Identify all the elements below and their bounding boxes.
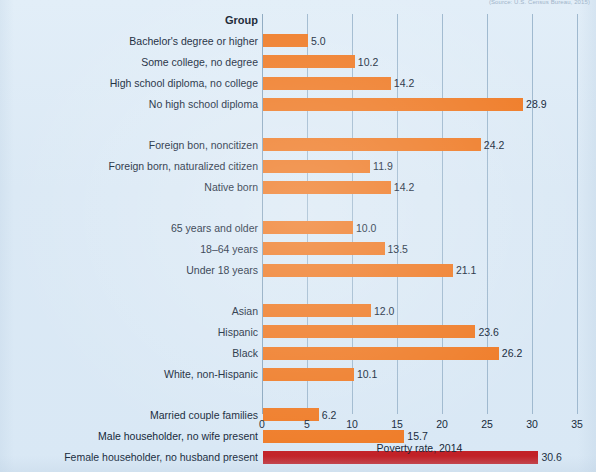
bar xyxy=(263,430,404,443)
category-label: High school diploma, no college xyxy=(110,77,258,89)
bar-value-label: 6.2 xyxy=(322,409,337,421)
x-axis-title: Poverty rate, 2014 xyxy=(262,442,577,454)
x-tick-label: 5 xyxy=(304,418,310,430)
bar xyxy=(263,221,353,234)
category-label: 65 years and older xyxy=(171,222,258,234)
bar-value-label: 5.0 xyxy=(311,35,326,47)
category-label: Native born xyxy=(204,181,258,193)
category-label: White, non-Hispanic xyxy=(164,368,258,380)
bar-value-label: 24.2 xyxy=(484,139,504,151)
source-caption: (Source: U.S. Census Bureau, 2015) xyxy=(270,0,590,7)
x-tick-label: 20 xyxy=(436,418,448,430)
bar xyxy=(263,55,355,68)
bar xyxy=(263,264,453,277)
bar xyxy=(263,34,308,47)
bar-row: Male householder, no wife present15.7 xyxy=(262,430,577,443)
category-label: Asian xyxy=(232,305,258,317)
bar-value-label: 11.9 xyxy=(373,160,393,172)
x-tick-label: 15 xyxy=(391,418,403,430)
category-label: Black xyxy=(232,347,258,359)
x-tick-label: 30 xyxy=(526,418,538,430)
category-label: Foreign bon, noncitizen xyxy=(149,139,258,151)
plot-area: Group Bachelor's degree or higher5.0Some… xyxy=(262,14,577,414)
bar-value-label: 10.0 xyxy=(356,222,376,234)
bar-row: Foreign bon, noncitizen24.2 xyxy=(262,138,577,151)
bar-value-label: 26.2 xyxy=(502,347,522,359)
x-tick-label: 0 xyxy=(259,418,265,430)
bar xyxy=(263,181,391,194)
bar xyxy=(263,368,354,381)
bar xyxy=(263,304,371,317)
bar-row: Some college, no degree10.2 xyxy=(262,55,577,68)
bar-value-label: 14.2 xyxy=(394,77,414,89)
bar-value-label: 10.2 xyxy=(358,56,378,68)
category-label: Married couple families xyxy=(150,409,258,421)
bar xyxy=(263,242,385,255)
category-label: Hispanic xyxy=(218,326,258,338)
gridline-35 xyxy=(577,14,578,414)
bar xyxy=(263,138,481,151)
category-label: Bachelor's degree or higher xyxy=(129,35,258,47)
category-label: Under 18 years xyxy=(186,264,258,276)
category-label: 18–64 years xyxy=(200,243,258,255)
bar-row: Black26.2 xyxy=(262,347,577,360)
bar xyxy=(263,325,475,338)
bar-row: White, non-Hispanic10.1 xyxy=(262,368,577,381)
category-label: No high school diploma xyxy=(149,98,258,110)
bar-value-label: 14.2 xyxy=(394,181,414,193)
bar-value-label: 21.1 xyxy=(456,264,476,276)
category-label: Some college, no degree xyxy=(141,56,258,68)
bar-row: 18–64 years13.5 xyxy=(262,242,577,255)
bar xyxy=(263,77,391,90)
bar xyxy=(263,347,499,360)
group-column-header: Group xyxy=(225,14,258,26)
bar-value-label: 10.1 xyxy=(357,368,377,380)
bar-row: Foreign born, naturalized citizen11.9 xyxy=(262,160,577,173)
bar-row: Under 18 years21.1 xyxy=(262,264,577,277)
bar-row: Native born14.2 xyxy=(262,181,577,194)
bar-value-label: 28.9 xyxy=(526,98,546,110)
category-label: Male householder, no wife present xyxy=(98,430,258,442)
poverty-rate-bar-chart: (Source: U.S. Census Bureau, 2015) Group… xyxy=(0,0,596,472)
bar-row: Asian12.0 xyxy=(262,304,577,317)
bar xyxy=(263,98,523,111)
bar-value-label: 15.7 xyxy=(407,430,427,442)
bar-row: Hispanic23.6 xyxy=(262,325,577,338)
category-label: Female householder, no husband present xyxy=(64,451,258,463)
category-label: Foreign born, naturalized citizen xyxy=(109,160,258,172)
x-tick-label: 25 xyxy=(481,418,493,430)
bar xyxy=(263,408,319,421)
bar-row: High school diploma, no college14.2 xyxy=(262,77,577,90)
bar-value-label: 23.6 xyxy=(478,326,498,338)
x-tick-label: 10 xyxy=(346,418,358,430)
bar-row: No high school diploma28.9 xyxy=(262,98,577,111)
bar-row: Bachelor's degree or higher5.0 xyxy=(262,34,577,47)
bar-value-label: 12.0 xyxy=(374,305,394,317)
bar xyxy=(263,160,370,173)
x-tick-label: 35 xyxy=(571,418,583,430)
bar-value-label: 13.5 xyxy=(388,243,408,255)
bar-row: 65 years and older10.0 xyxy=(262,221,577,234)
